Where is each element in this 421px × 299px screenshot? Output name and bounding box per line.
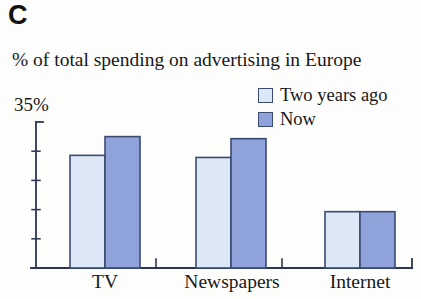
x-axis-label-tv: TV xyxy=(60,272,150,292)
bar-internet-two-years-ago xyxy=(325,212,360,268)
bar-newspapers-two-years-ago xyxy=(196,157,231,268)
x-axis-label-newspapers: Newspapers xyxy=(172,272,292,292)
bar-internet-now xyxy=(360,212,395,268)
bar-tv-now xyxy=(105,137,140,268)
chart-plot-area xyxy=(0,0,421,299)
bar-tv-two-years-ago xyxy=(70,155,105,268)
x-axis-label-internet: Internet xyxy=(308,272,412,292)
bar-chart-svg xyxy=(0,0,421,299)
bar-newspapers-now xyxy=(231,139,266,268)
